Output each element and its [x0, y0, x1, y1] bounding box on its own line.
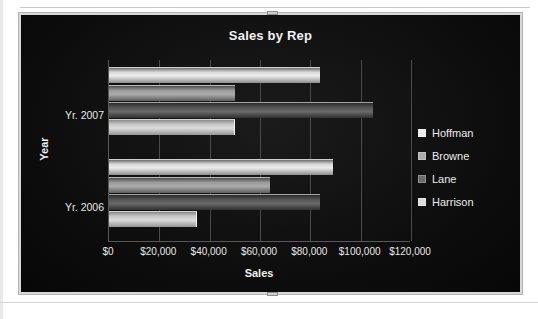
bar-2006-harrison[interactable] [109, 211, 197, 227]
legend-item-harrison[interactable]: Harrison [418, 196, 510, 208]
document-page: Sales by Rep Year Yr. 2007 Yr. 2006 [0, 0, 538, 319]
x-axis-title: Sales [108, 267, 410, 279]
chart-legend[interactable]: HoffmanBrowneLaneHarrison [418, 127, 510, 219]
page-top-rule [20, 7, 530, 8]
legend-swatch-icon-harrison [418, 198, 426, 206]
legend-swatch-icon-lane [418, 175, 426, 183]
x-tick-label-120000: $120,000 [389, 246, 431, 257]
x-tick-label-20000: $20,000 [140, 246, 176, 257]
bar-2007-lane[interactable] [109, 102, 373, 118]
bar-2006-lane[interactable] [109, 194, 320, 210]
chart-object-frame[interactable]: Sales by Rep Year Yr. 2007 Yr. 2006 [19, 13, 522, 294]
legend-label: Hoffman [432, 127, 473, 139]
bar-2007-harrison[interactable] [109, 119, 235, 135]
gridline-120000 [411, 60, 412, 241]
bar-2007-hoffman[interactable] [109, 67, 320, 83]
x-tick-label-80000: $80,000 [291, 246, 327, 257]
legend-label: Lane [432, 173, 456, 185]
x-axis-tick-labels: $0$20,000$40,000$60,000$80,000$100,000$1… [108, 246, 410, 262]
chart-title: Sales by Rep [21, 28, 520, 43]
x-tick-label-100000: $100,000 [339, 246, 381, 257]
legend-swatch-icon-browne [418, 152, 426, 160]
legend-label: Harrison [432, 196, 474, 208]
page-bottom-rule [0, 302, 538, 303]
legend-swatch-icon-hoffman [418, 129, 426, 137]
page-left-margin [0, 0, 3, 319]
legend-item-hoffman[interactable]: Hoffman [418, 127, 510, 139]
category-label-2007: Yr. 2007 [34, 109, 104, 121]
legend-label: Browne [432, 150, 469, 162]
legend-item-lane[interactable]: Lane [418, 173, 510, 185]
bar-2006-browne[interactable] [109, 177, 270, 193]
bar-group-2006 [109, 156, 410, 238]
bottom-resize-handle[interactable] [267, 292, 278, 296]
legend-item-browne[interactable]: Browne [418, 150, 510, 162]
y-axis-title: Year [38, 119, 50, 179]
x-tick-label-60000: $60,000 [241, 246, 277, 257]
chart-area[interactable]: Sales by Rep Year Yr. 2007 Yr. 2006 [21, 15, 520, 292]
category-label-2006: Yr. 2006 [34, 201, 104, 213]
plot-area [108, 60, 410, 242]
x-tick-label-0: $0 [102, 246, 113, 257]
bar-2006-hoffman[interactable] [109, 159, 333, 175]
x-tick-label-40000: $40,000 [191, 246, 227, 257]
bar-2007-browne[interactable] [109, 85, 235, 101]
bar-group-2007 [109, 64, 410, 146]
